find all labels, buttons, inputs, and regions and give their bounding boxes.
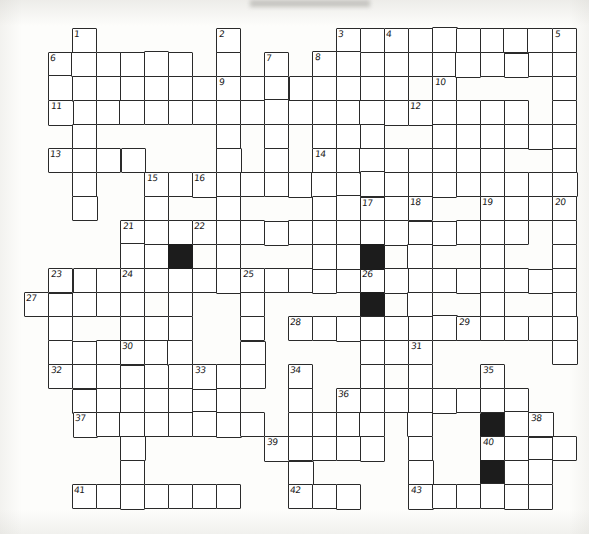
crossword-cell[interactable]: [168, 364, 193, 389]
crossword-cell[interactable]: [504, 436, 529, 461]
crossword-cell[interactable]: [120, 243, 145, 268]
crossword-cell[interactable]: [336, 76, 361, 101]
crossword-cell[interactable]: [216, 412, 241, 437]
crossword-cell[interactable]: 14: [312, 148, 337, 173]
crossword-cell[interactable]: [456, 124, 481, 149]
crossword-cell[interactable]: [73, 100, 98, 125]
crossword-cell[interactable]: [360, 388, 385, 413]
crossword-cell[interactable]: [96, 100, 121, 125]
crossword-cell[interactable]: [336, 195, 361, 220]
crossword-cell[interactable]: 20: [552, 196, 577, 221]
crossword-cell[interactable]: [119, 100, 144, 125]
crossword-cell[interactable]: 19: [480, 196, 505, 221]
crossword-cell[interactable]: [168, 100, 193, 125]
crossword-cell[interactable]: 40: [480, 436, 505, 461]
crossword-cell[interactable]: [336, 148, 361, 173]
crossword-cell[interactable]: [552, 148, 577, 173]
crossword-cell[interactable]: [384, 172, 409, 197]
crossword-cell[interactable]: 33: [192, 364, 217, 389]
crossword-cell[interactable]: [96, 292, 121, 317]
crossword-cell[interactable]: [336, 484, 361, 509]
crossword-cell[interactable]: [168, 52, 193, 77]
crossword-cell[interactable]: [312, 196, 337, 221]
crossword-cell[interactable]: [384, 76, 409, 101]
crossword-cell[interactable]: [144, 340, 169, 365]
crossword-cell[interactable]: 1: [72, 28, 97, 53]
crossword-cell[interactable]: [528, 172, 553, 197]
crossword-cell[interactable]: [408, 436, 433, 461]
crossword-cell[interactable]: [480, 124, 505, 149]
crossword-cell[interactable]: [216, 100, 241, 125]
crossword-cell[interactable]: 39: [264, 436, 289, 461]
crossword-cell[interactable]: [72, 76, 97, 101]
crossword-cell[interactable]: [360, 364, 385, 389]
crossword-cell[interactable]: [264, 221, 289, 246]
crossword-cell[interactable]: 9: [216, 76, 241, 101]
crossword-cell[interactable]: [216, 388, 241, 413]
crossword-cell[interactable]: [528, 316, 553, 341]
crossword-cell[interactable]: [96, 388, 121, 413]
crossword-cell[interactable]: 35: [480, 364, 505, 389]
crossword-cell[interactable]: [240, 292, 265, 317]
crossword-cell[interactable]: [408, 316, 433, 341]
crossword-cell[interactable]: [264, 99, 289, 124]
crossword-cell[interactable]: [504, 411, 529, 436]
crossword-cell[interactable]: [455, 52, 480, 77]
crossword-cell[interactable]: [216, 364, 241, 389]
crossword-cell[interactable]: [192, 411, 217, 436]
crossword-cell[interactable]: [359, 100, 384, 125]
crossword-cell[interactable]: [504, 196, 529, 221]
crossword-cell[interactable]: [336, 220, 361, 245]
crossword-cell[interactable]: [192, 389, 217, 414]
crossword-cell[interactable]: [432, 221, 457, 246]
crossword-cell[interactable]: [288, 388, 313, 413]
crossword-cell[interactable]: [312, 436, 337, 461]
crossword-cell[interactable]: [71, 52, 96, 77]
crossword-cell[interactable]: [504, 53, 529, 78]
crossword-cell[interactable]: [504, 124, 529, 149]
crossword-cell[interactable]: [432, 100, 457, 125]
crossword-cell[interactable]: [480, 52, 505, 77]
crossword-cell[interactable]: [456, 484, 481, 509]
crossword-cell[interactable]: [144, 268, 169, 293]
crossword-cell[interactable]: [288, 461, 313, 486]
crossword-cell[interactable]: [192, 268, 217, 293]
crossword-cell[interactable]: [216, 484, 241, 509]
crossword-cell[interactable]: [360, 316, 385, 341]
crossword-cell[interactable]: [432, 52, 457, 77]
crossword-cell[interactable]: [216, 124, 241, 149]
crossword-cell[interactable]: [408, 172, 433, 197]
crossword-cell[interactable]: [504, 268, 529, 293]
crossword-cell[interactable]: [360, 171, 385, 196]
crossword-cell[interactable]: [504, 172, 529, 197]
crossword-cell[interactable]: [312, 124, 337, 149]
crossword-cell[interactable]: 10: [432, 76, 457, 101]
crossword-cell[interactable]: 25: [240, 268, 265, 293]
crossword-cell[interactable]: [120, 316, 145, 341]
crossword-cell[interactable]: [72, 124, 97, 149]
crossword-cell[interactable]: 38: [528, 412, 553, 437]
crossword-cell[interactable]: [48, 316, 73, 341]
crossword-cell[interactable]: [552, 100, 577, 125]
crossword-cell[interactable]: [48, 293, 73, 318]
crossword-cell[interactable]: [144, 316, 169, 341]
crossword-cell[interactable]: [360, 76, 385, 101]
crossword-cell[interactable]: [552, 52, 577, 77]
crossword-cell[interactable]: 8: [312, 51, 337, 76]
crossword-cell[interactable]: [96, 340, 121, 365]
crossword-cell[interactable]: [312, 244, 337, 269]
crossword-cell[interactable]: [359, 412, 384, 437]
crossword-cell[interactable]: [264, 172, 289, 197]
crossword-cell[interactable]: [407, 412, 432, 437]
crossword-cell[interactable]: [144, 388, 169, 413]
crossword-cell[interactable]: [312, 220, 337, 245]
crossword-cell[interactable]: [408, 221, 433, 246]
crossword-cell[interactable]: [360, 28, 385, 53]
crossword-cell[interactable]: [288, 412, 313, 437]
crossword-cell[interactable]: [312, 268, 337, 293]
crossword-cell[interactable]: [168, 292, 193, 317]
crossword-cell[interactable]: [72, 364, 97, 389]
crossword-cell[interactable]: [168, 76, 193, 101]
crossword-cell[interactable]: [120, 460, 145, 485]
crossword-cell[interactable]: [384, 316, 409, 341]
